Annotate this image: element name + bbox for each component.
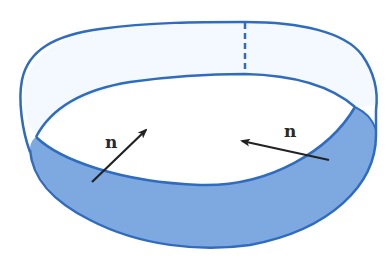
mobius-strip-drawing [0, 0, 392, 274]
left-normal-label: n [105, 134, 117, 151]
right-normal-label: n [284, 123, 296, 140]
mobius-strip-figure: n n [0, 0, 392, 274]
lower-band-surface [30, 107, 376, 248]
upper-band-surface [24, 22, 377, 135]
